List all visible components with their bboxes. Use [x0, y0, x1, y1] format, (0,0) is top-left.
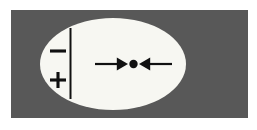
- minus-sign: [50, 49, 66, 52]
- diagram-canvas: [0, 0, 257, 130]
- center-point: [129, 60, 137, 68]
- figure-container: Charged ellipse diagram with converging …: [0, 0, 257, 130]
